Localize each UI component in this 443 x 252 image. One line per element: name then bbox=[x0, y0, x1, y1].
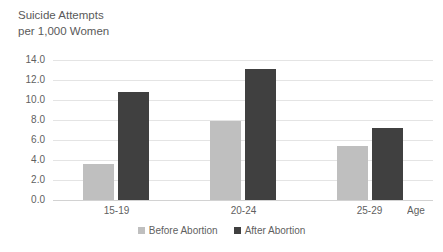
y-axis-tick-label: 8.0 bbox=[31, 115, 45, 125]
y-axis-tick-label: 2.0 bbox=[31, 175, 45, 185]
x-axis-tick-label: 15-19 bbox=[53, 205, 180, 217]
x-axis-tick-label: 20-24 bbox=[180, 205, 307, 217]
chart-title: Suicide Attempts per 1,000 Women bbox=[18, 7, 109, 39]
y-axis-tick-label: 14.0 bbox=[26, 55, 45, 65]
legend-swatch-icon bbox=[138, 227, 145, 234]
y-axis-tick-label: 12.0 bbox=[26, 75, 45, 85]
bar-20-24-before bbox=[210, 121, 241, 200]
bar-15-19-after bbox=[118, 92, 149, 200]
x-axis-title: Age bbox=[407, 205, 443, 217]
bar-25-29-after bbox=[372, 128, 403, 200]
y-axis: 14.012.010.08.06.04.02.00.0 bbox=[0, 60, 53, 200]
chart-title-line-2: per 1,000 Women bbox=[18, 23, 109, 39]
y-axis-tick-label: 6.0 bbox=[31, 135, 45, 145]
x-axis: 15-1920-2425-29 bbox=[53, 205, 433, 223]
chart-legend: Before AbortionAfter Abortion bbox=[0, 225, 443, 236]
legend-item-after-abortion: After Abortion bbox=[234, 225, 306, 236]
chart-title-line-1: Suicide Attempts bbox=[18, 7, 109, 23]
y-axis-tick-label: 4.0 bbox=[31, 155, 45, 165]
y-axis-tick-label: 10.0 bbox=[26, 95, 45, 105]
y-axis-tick-label: 0.0 bbox=[31, 195, 45, 205]
bar-chart: Suicide Attempts per 1,000 Women 14.012.… bbox=[0, 0, 443, 252]
legend-label: After Abortion bbox=[245, 225, 306, 236]
bar-20-24-after bbox=[245, 69, 276, 200]
bars-layer bbox=[53, 60, 433, 200]
legend-label: Before Abortion bbox=[149, 225, 218, 236]
legend-item-before-abortion: Before Abortion bbox=[138, 225, 218, 236]
bar-25-29-before bbox=[337, 146, 368, 200]
legend-swatch-icon bbox=[234, 227, 241, 234]
bar-15-19-before bbox=[83, 164, 114, 200]
gridline bbox=[53, 200, 433, 201]
